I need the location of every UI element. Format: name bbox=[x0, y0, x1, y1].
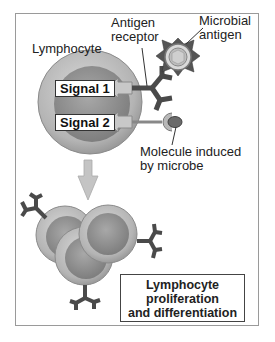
microbial-antigen-icon bbox=[156, 38, 200, 76]
signal1-label: Signal 1 bbox=[55, 80, 115, 97]
label-line: antigen bbox=[199, 28, 251, 42]
lymphocyte-cell bbox=[38, 50, 142, 154]
molecule-pointer bbox=[172, 127, 176, 145]
label-line: Molecule induced bbox=[140, 145, 241, 159]
outcome-line: and differentiation bbox=[121, 306, 244, 320]
antigen-receptor-label: Antigen receptor bbox=[111, 16, 159, 44]
signal2-label: Signal 2 bbox=[55, 114, 115, 131]
outcome-box: Lymphocyte proliferation and differentia… bbox=[120, 274, 245, 322]
label-line: by microbe bbox=[140, 159, 241, 173]
lymphocyte-label: Lymphocyte bbox=[32, 42, 102, 56]
microbial-antigen-label: Microbial antigen bbox=[199, 14, 251, 42]
molecule-label: Molecule induced by microbe bbox=[140, 145, 241, 173]
receptor-pointer bbox=[142, 48, 147, 86]
outcome-line: proliferation bbox=[121, 292, 244, 306]
daughter-receptor-icon bbox=[70, 285, 100, 310]
label-line: Antigen bbox=[111, 16, 159, 30]
label-line: receptor bbox=[111, 30, 159, 44]
daughter-receptor-icon bbox=[22, 194, 46, 218]
outcome-line: Lymphocyte bbox=[121, 278, 244, 292]
daughter-receptor-icon bbox=[137, 224, 162, 258]
label-line: Microbial bbox=[199, 14, 251, 28]
down-arrow-icon bbox=[78, 160, 98, 200]
daughter-cell-3 bbox=[79, 205, 137, 263]
